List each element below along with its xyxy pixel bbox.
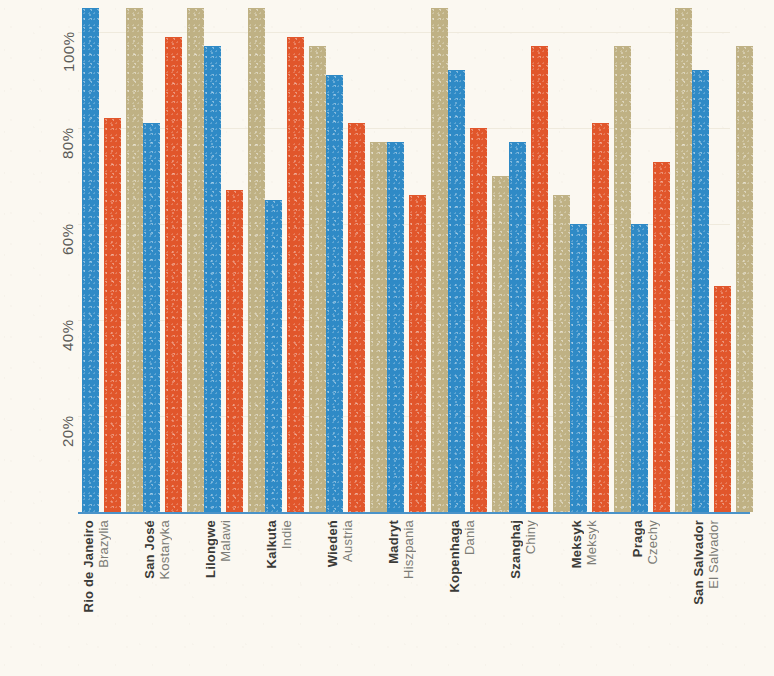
x-axis-city-name: Meksyk [570,520,583,568]
bar[interactable] [470,128,487,512]
x-axis-country-name: Austria [341,520,354,562]
bar[interactable] [653,162,670,512]
x-axis-country-name: Malawi [219,520,232,562]
x-axis-city-name: Lilongwe [204,520,217,578]
bar-group [692,32,753,512]
x-axis-country-name: El Salvador [707,520,720,589]
bar[interactable] [592,123,609,512]
bar[interactable] [204,46,221,512]
x-axis-country-name: Chiny [524,520,537,554]
x-axis-category-label: San JoséKostaryka [143,520,187,670]
bar[interactable] [431,8,448,512]
bar-group [509,32,570,512]
bar[interactable] [675,8,692,512]
x-axis-city-name: Wiedeń [326,520,339,567]
y-axis-tick-text: 100% [60,32,77,72]
x-axis-category-label: SzanghajChiny [509,520,553,670]
bar[interactable] [509,142,526,512]
x-axis-country-name: Brazylia [97,520,110,568]
x-axis-city-name: Praga [631,520,644,557]
bar[interactable] [126,8,143,512]
x-axis-city-name: Rio de Janeiro [82,520,95,612]
y-axis-tick-text: 80% [60,128,77,160]
x-axis-category-label: MadrytHiszpania [387,520,431,670]
y-axis-tick-label: 80% [36,119,68,136]
bar-group [448,32,509,512]
x-axis-city-name: Kopenhaga [448,520,461,593]
x-axis-category-label: Rio de JaneiroBrazylia [82,520,126,670]
x-axis-category-label: KopenhagaDania [448,520,492,670]
x-axis-labels: Rio de JaneiroBrazyliaSan JoséKostarykaL… [78,520,730,670]
bar-group [265,32,326,512]
bar[interactable] [614,46,631,512]
bar[interactable] [326,75,343,512]
bar[interactable] [248,8,265,512]
x-axis-category-label: WiedeńAustria [326,520,370,670]
y-axis-tick-text: 20% [60,416,77,448]
bar-group [570,32,631,512]
bar[interactable] [570,224,587,512]
bar[interactable] [370,142,387,512]
bar[interactable] [348,123,365,512]
bar[interactable] [736,46,753,512]
y-axis-tick-text: 60% [60,224,77,256]
x-axis-category-label: KalkutaIndie [265,520,309,670]
bar[interactable] [265,200,282,512]
bar[interactable] [531,46,548,512]
bar[interactable] [492,176,509,512]
y-axis: 20%40%60%80%100% [0,32,78,512]
x-axis-city-name: San Salvador [692,520,705,605]
x-axis-category-label: LilongweMalawi [204,520,248,670]
x-axis-city-name: Madryt [387,520,400,564]
x-axis-category-label: PragaCzechy [631,520,675,670]
bar[interactable] [226,190,243,512]
y-axis-tick-label: 60% [36,215,68,232]
bar[interactable] [165,37,182,512]
bar[interactable] [104,118,121,512]
y-axis-tick-text: 40% [60,320,77,352]
bar[interactable] [309,46,326,512]
bar[interactable] [387,142,404,512]
x-axis-city-name: Kalkuta [265,520,278,568]
plot-area [78,32,730,512]
bar[interactable] [287,37,304,512]
x-axis-city-name: San José [143,520,156,579]
bar[interactable] [714,286,731,512]
bar-group [204,32,265,512]
bar-group [631,32,692,512]
bar-group [326,32,387,512]
bar[interactable] [143,123,160,512]
bar[interactable] [448,70,465,512]
y-axis-tick-label: 20% [36,407,68,424]
bar[interactable] [409,195,426,512]
bar-group [387,32,448,512]
x-axis-city-name: Szanghaj [509,520,522,579]
x-axis-country-name: Kostaryka [158,520,171,580]
bar[interactable] [692,70,709,512]
bar[interactable] [82,8,99,512]
x-axis-country-name: Meksyk [585,520,598,565]
bar[interactable] [187,8,204,512]
bar-chart: 20%40%60%80%100% Rio de JaneiroBrazyliaS… [0,0,774,676]
x-axis-country-name: Hiszpania [402,520,415,579]
x-axis-country-name: Indie [280,520,293,549]
x-axis-line [78,512,750,514]
x-axis-category-label: San SalvadorEl Salvador [692,520,736,670]
x-axis-category-label: MeksykMeksyk [570,520,614,670]
bar[interactable] [631,224,648,512]
x-axis-country-name: Dania [463,520,476,555]
bar-group [82,32,143,512]
y-axis-tick-label: 100% [28,23,68,40]
bar[interactable] [553,195,570,512]
bar-group [143,32,204,512]
x-axis-country-name: Czechy [646,520,659,565]
y-axis-tick-label: 40% [36,311,68,328]
